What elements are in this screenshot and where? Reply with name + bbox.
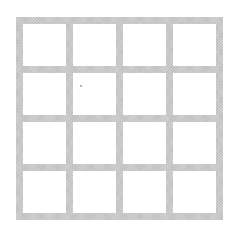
- grid-cell-r1-c1: [23, 24, 66, 66]
- grid-cell-r3-c1: [23, 122, 66, 164]
- grid-cell-r2-c1: [23, 73, 66, 115]
- grid-cell-r3-c4: [173, 122, 216, 164]
- grid-cell-r2-c2: [73, 73, 116, 115]
- grid-cell-r2-c4: [173, 73, 216, 115]
- grid-cell-r1-c2: [73, 24, 116, 66]
- speck-mark: [80, 85, 82, 87]
- grid-diagram: [16, 17, 223, 220]
- grid-cell-r4-c3: [123, 171, 166, 213]
- grid-cell-r4-c2: [73, 171, 116, 213]
- grid-cell-r1-c3: [123, 24, 166, 66]
- grid-cell-r2-c3: [123, 73, 166, 115]
- grid-cell-r1-c4: [173, 24, 216, 66]
- grid-cell-r4-c1: [23, 171, 66, 213]
- grid-cell-r4-c4: [173, 171, 216, 213]
- grid-cell-r3-c2: [73, 122, 116, 164]
- grid-cell-r3-c3: [123, 122, 166, 164]
